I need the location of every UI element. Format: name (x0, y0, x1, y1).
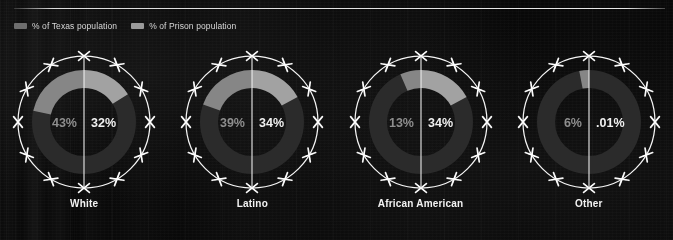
barb-icon (525, 82, 538, 96)
legend-swatch-icon (131, 23, 144, 29)
barb-icon (135, 148, 148, 162)
legend-item-texas: % of Texas population (14, 21, 117, 31)
value-prison: 34% (259, 116, 284, 130)
barb-icon (135, 82, 148, 96)
donut-chart-latino: 39% 34% (168, 46, 336, 206)
barb-icon (357, 82, 370, 96)
donut-arc-prison (252, 70, 298, 106)
barb-icon (549, 173, 563, 186)
donut-chart-white: 43% 32% (0, 46, 168, 206)
value-prison: 32% (91, 116, 116, 130)
value-texas: 13% (389, 116, 414, 130)
barb-icon (471, 82, 484, 96)
legend-item-prison: % of Prison population (131, 21, 236, 31)
value-texas: 6% (564, 116, 582, 130)
donut-svg: 13% 34% (345, 46, 497, 198)
donut-wrap: 13% 34% (345, 46, 497, 198)
barb-icon (303, 82, 316, 96)
barb-icon (615, 58, 629, 71)
top-divider-rule (14, 8, 665, 9)
category-label: White (0, 198, 168, 218)
barb-icon (20, 148, 33, 162)
barb-icon (525, 148, 538, 162)
category-label: Other (505, 198, 673, 218)
barb-icon (278, 58, 292, 71)
legend: % of Texas population % of Prison popula… (14, 21, 236, 31)
barb-icon (447, 58, 461, 71)
barb-icon (110, 173, 124, 186)
barb-icon (640, 82, 653, 96)
category-label-row: WhiteLatinoAfrican AmericanOther (0, 198, 673, 218)
donut-chart-other: 6% .01% (505, 46, 673, 206)
donut-svg: 43% 32% (8, 46, 160, 198)
donut-wrap: 43% 32% (8, 46, 160, 198)
barb-icon (381, 58, 395, 71)
barb-icon (640, 148, 653, 162)
donut-wrap: 6% .01% (513, 46, 665, 198)
donut-chart-row: 43% 32% (0, 46, 673, 206)
legend-label-texas: % of Texas population (32, 21, 117, 31)
value-prison: 34% (428, 116, 453, 130)
barb-icon (615, 173, 629, 186)
donut-wrap: 39% 34% (176, 46, 328, 198)
barb-icon (189, 148, 202, 162)
barb-icon (212, 58, 226, 71)
category-label: Latino (168, 198, 336, 218)
infographic-canvas: % of Texas population % of Prison popula… (0, 0, 673, 240)
barb-icon (447, 173, 461, 186)
legend-swatch-icon (14, 23, 27, 29)
donut-chart-african-american: 13% 34% (337, 46, 505, 206)
donut-arc-texas (33, 70, 84, 115)
value-texas: 43% (52, 116, 77, 130)
value-texas: 39% (220, 116, 245, 130)
barb-icon (20, 82, 33, 96)
barb-icon (549, 58, 563, 71)
donut-svg: 6% .01% (513, 46, 665, 198)
value-prison: .01% (596, 116, 625, 130)
barb-icon (110, 58, 124, 71)
barb-icon (212, 173, 226, 186)
barb-icon (381, 173, 395, 186)
barb-icon (44, 58, 58, 71)
barb-icon (357, 148, 370, 162)
barb-icon (44, 173, 58, 186)
barb-icon (189, 82, 202, 96)
donut-arc-texas (203, 70, 252, 110)
barb-icon (471, 148, 484, 162)
category-label: African American (337, 198, 505, 218)
barb-icon (278, 173, 292, 186)
barb-icon (303, 148, 316, 162)
donut-arc-prison (421, 70, 467, 106)
donut-svg: 39% 34% (176, 46, 328, 198)
legend-label-prison: % of Prison population (149, 21, 236, 31)
